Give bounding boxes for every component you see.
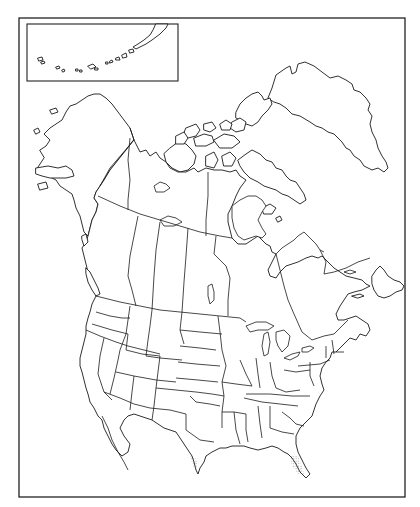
north-america-mainland bbox=[80, 140, 370, 478]
lake-winnipeg bbox=[208, 284, 214, 304]
st-lawrence-island bbox=[50, 108, 58, 114]
north-america-map: North America outline map bbox=[0, 0, 420, 507]
arctic-island-6 bbox=[214, 134, 240, 148]
arctic-island-5 bbox=[194, 134, 214, 146]
ungava-coast bbox=[276, 232, 324, 254]
arctic-island-2 bbox=[220, 120, 232, 130]
hudson-bay bbox=[232, 196, 266, 240]
prince-edward-island bbox=[352, 294, 364, 298]
aleutian-inset bbox=[27, 24, 178, 81]
greenland bbox=[268, 62, 388, 172]
arctic-island-1 bbox=[230, 118, 246, 132]
anticosti-island bbox=[344, 270, 356, 274]
arctic-island-3 bbox=[204, 122, 216, 132]
prince-of-wales-island bbox=[206, 152, 218, 168]
alaska-peninsula bbox=[36, 166, 74, 178]
newfoundland bbox=[372, 266, 404, 298]
somerset-island bbox=[222, 152, 236, 166]
coats-island bbox=[276, 216, 282, 222]
nunivak-island bbox=[34, 128, 40, 134]
kodiak-island bbox=[38, 182, 48, 190]
